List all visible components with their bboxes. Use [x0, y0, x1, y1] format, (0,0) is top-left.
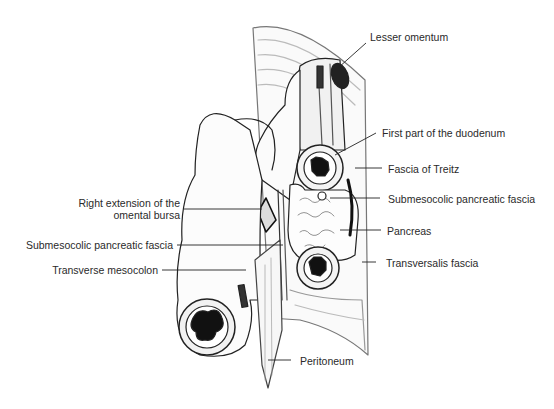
- label-lesser-omentum: Lesser omentum: [370, 31, 448, 43]
- label-pancreas: Pancreas: [387, 225, 431, 237]
- label-submesocolic-pancreatic-fascia-left: Submesocolic pancreatic fascia: [10, 239, 173, 251]
- anatomical-diagram: Lesser omentum First part of the duodenu…: [0, 0, 554, 409]
- label-right-extension-omental-bursa: Right extension of the omental bursa: [60, 197, 180, 221]
- label-transverse-mesocolon: Transverse mesocolon: [30, 264, 158, 276]
- label-first-part-duodenum: First part of the duodenum: [382, 127, 505, 139]
- label-peritoneum: Peritoneum: [300, 355, 354, 367]
- label-right-extension-line2: omental bursa: [60, 209, 180, 221]
- label-fascia-of-treitz: Fascia of Treitz: [388, 163, 459, 175]
- label-right-extension-line1: Right extension of the: [60, 197, 180, 209]
- label-submesocolic-pancreatic-fascia-right: Submesocolic pancreatic fascia: [388, 193, 535, 205]
- label-transversalis-fascia: Transversalis fascia: [386, 257, 478, 269]
